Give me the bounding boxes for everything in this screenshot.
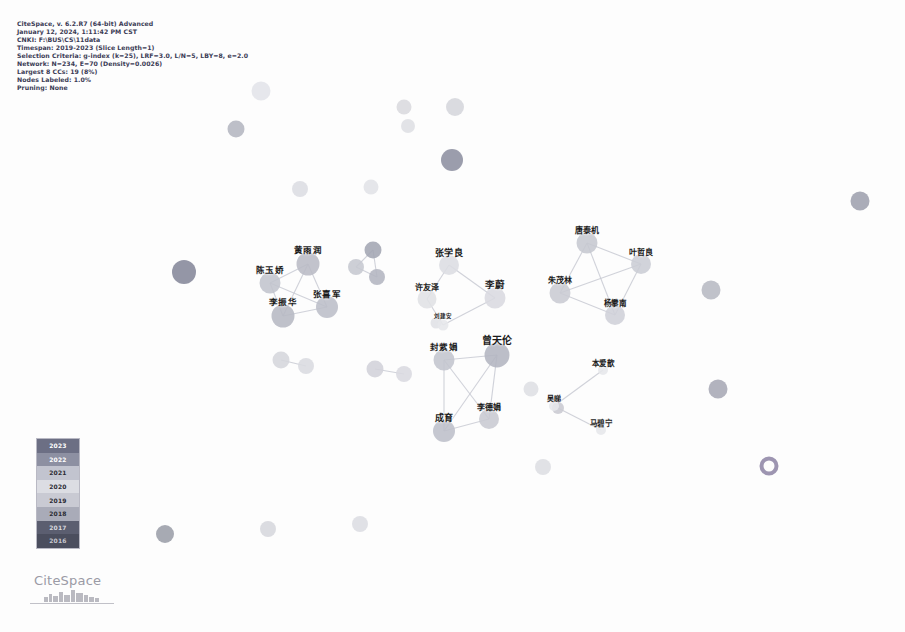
network-node-labeled[interactable] [605, 305, 625, 325]
network-node[interactable] [396, 366, 412, 382]
network-node[interactable] [367, 361, 384, 378]
legend-band-2018[interactable]: 2018 [37, 507, 79, 521]
network-node-labeled[interactable] [433, 420, 455, 442]
legend-band-2021[interactable]: 2021 [37, 466, 79, 480]
citespace-window: 黄雨润陈玉娇张喜军李振华张学良许友泽李蔚刘建安唐泰机叶哲良朱茂林杨攀南封紫娟曾天… [0, 0, 905, 632]
network-node[interactable] [760, 457, 779, 476]
network-node[interactable] [292, 181, 308, 197]
network-node-labeled[interactable] [316, 296, 338, 318]
legend-band-label: 2023 [49, 442, 67, 449]
network-node-labeled[interactable] [485, 288, 506, 309]
legend-band-2020[interactable]: 2020 [37, 480, 79, 494]
network-node-labeled[interactable] [598, 365, 608, 375]
skyline-icon [30, 589, 114, 606]
network-node-labeled[interactable] [549, 401, 559, 411]
network-node-labeled[interactable] [631, 254, 651, 274]
citespace-logo: CiteSpace [30, 573, 114, 606]
node-layer[interactable] [0, 0, 905, 632]
analysis-parameter-line: CiteSpace, v. 6.2.R7 (64-bit) Advanced [17, 20, 248, 28]
legend-band-2017[interactable]: 2017 [37, 521, 79, 535]
legend-band-label: 2018 [49, 510, 67, 517]
network-node-labeled[interactable] [418, 290, 437, 309]
legend-band-label: 2022 [49, 456, 67, 463]
analysis-parameter-line: Largest 8 CCs: 19 (8%) [17, 68, 248, 76]
network-node-labeled[interactable] [434, 350, 455, 371]
network-node-labeled[interactable] [260, 273, 281, 294]
network-node[interactable] [524, 382, 539, 397]
network-node[interactable] [535, 459, 551, 475]
network-node-labeled[interactable] [550, 283, 571, 304]
legend-band-label: 2020 [49, 483, 67, 490]
analysis-parameter-line: Network: N=234, E=70 (Density=0.0026) [17, 60, 248, 68]
network-node[interactable] [364, 180, 379, 195]
network-node-labeled[interactable] [438, 320, 449, 331]
network-node[interactable] [851, 192, 870, 211]
network-node[interactable] [273, 352, 290, 369]
network-node[interactable] [348, 259, 364, 275]
network-node[interactable] [172, 260, 196, 284]
legend-band-label: 2021 [49, 469, 67, 476]
network-node-labeled[interactable] [485, 343, 510, 368]
analysis-parameter-line: CNKI: F:\BUS\CS\11data [17, 36, 248, 44]
citespace-wordmark: CiteSpace [30, 573, 114, 588]
analysis-parameter-line: Nodes Labeled: 1.0% [17, 76, 248, 84]
network-node-labeled[interactable] [439, 255, 459, 275]
legend-band-2023[interactable]: 2023 [37, 439, 79, 453]
network-node[interactable] [702, 281, 721, 300]
network-node[interactable] [441, 149, 463, 171]
network-node[interactable] [252, 82, 271, 101]
legend-band-label: 2019 [49, 497, 67, 504]
network-node[interactable] [365, 242, 382, 259]
legend-band-2019[interactable]: 2019 [37, 493, 79, 507]
network-node-labeled[interactable] [297, 253, 320, 276]
legend-band-label: 2016 [49, 537, 67, 544]
analysis-parameter-line: Selection Criteria: g-index (k=25), LRF=… [17, 52, 248, 60]
network-node-labeled[interactable] [596, 425, 606, 435]
legend-band-2022[interactable]: 2022 [37, 453, 79, 467]
network-node[interactable] [260, 521, 276, 537]
network-node[interactable] [397, 100, 412, 115]
network-node[interactable] [298, 358, 314, 374]
network-node-labeled[interactable] [479, 409, 499, 429]
analysis-parameters-panel: CiteSpace, v. 6.2.R7 (64-bit) AdvancedJa… [17, 20, 248, 92]
network-node[interactable] [352, 516, 368, 532]
analysis-parameter-line: Timespan: 2019-2023 (Slice Length=1) [17, 44, 248, 52]
network-node-labeled[interactable] [272, 305, 295, 328]
year-color-legend[interactable]: 20232022202120202019201820172016 [36, 438, 80, 549]
network-node-labeled[interactable] [577, 233, 598, 254]
network-node[interactable] [156, 525, 174, 543]
network-node[interactable] [228, 121, 245, 138]
legend-band-label: 2017 [49, 524, 67, 531]
network-node[interactable] [709, 380, 728, 399]
network-node[interactable] [446, 98, 464, 116]
network-node[interactable] [401, 119, 415, 133]
analysis-parameter-line: Pruning: None [17, 84, 248, 92]
network-node[interactable] [369, 269, 385, 285]
network-canvas[interactable]: 黄雨润陈玉娇张喜军李振华张学良许友泽李蔚刘建安唐泰机叶哲良朱茂林杨攀南封紫娟曾天… [0, 0, 905, 632]
legend-band-2016[interactable]: 2016 [37, 534, 79, 548]
analysis-parameter-line: January 12, 2024, 1:11:42 PM CST [17, 28, 248, 36]
